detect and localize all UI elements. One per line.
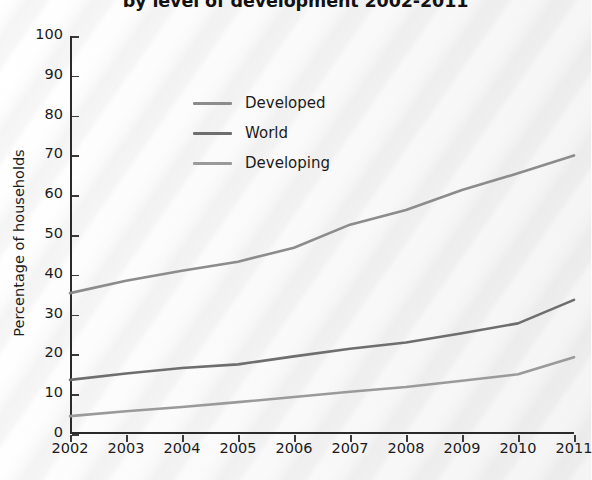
- y-tick-label: 100: [23, 26, 63, 42]
- y-tick-label: 30: [23, 305, 63, 321]
- x-tick-label: 2009: [444, 440, 481, 456]
- y-tick-label: 60: [23, 185, 63, 201]
- legend-line-icon: [193, 102, 232, 105]
- y-tick-label: 70: [23, 145, 63, 161]
- y-tick: 0: [72, 434, 79, 436]
- x-tick-label: 2007: [332, 440, 369, 456]
- legend-item-label: World: [245, 124, 288, 142]
- y-tick-label: 50: [23, 225, 63, 241]
- x-tick-label: 2008: [388, 440, 425, 456]
- y-tick-label: 20: [23, 344, 63, 360]
- y-tick-label: 40: [23, 265, 63, 281]
- y-tick-label: 80: [23, 106, 63, 122]
- series-line-developing: [70, 357, 574, 416]
- legend-item-developing[interactable]: Developing: [193, 148, 330, 178]
- series-line-world: [70, 300, 574, 380]
- x-tick-label: 2004: [164, 440, 201, 456]
- y-tick-label: 10: [23, 384, 63, 400]
- legend-line-icon: [193, 132, 232, 135]
- legend-item-world[interactable]: World: [193, 118, 330, 148]
- x-tick-label: 2010: [500, 440, 537, 456]
- x-tick-label: 2006: [276, 440, 313, 456]
- chart-title: by level of development 2002-2011: [0, 0, 591, 11]
- y-tick-label: 0: [23, 424, 63, 440]
- x-tick-label: 2003: [108, 440, 145, 456]
- y-tick-label: 90: [23, 66, 63, 82]
- legend-item-label: Developed: [245, 94, 326, 112]
- x-tick-label: 2005: [220, 440, 257, 456]
- legend-item-developed[interactable]: Developed: [193, 88, 330, 118]
- x-tick-label: 2011: [556, 440, 592, 456]
- chart-legend: DevelopedWorldDeveloping: [193, 88, 330, 178]
- x-tick-label: 2002: [52, 440, 89, 456]
- legend-item-label: Developing: [245, 154, 330, 172]
- legend-line-icon: [193, 162, 232, 165]
